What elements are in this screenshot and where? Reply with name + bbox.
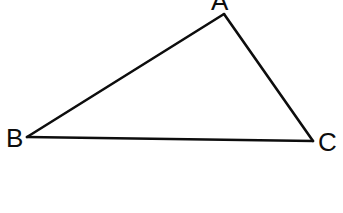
triangle-diagram-canvas: A B C [0,0,343,213]
vertex-label-c: C [318,129,337,155]
vertex-label-b: B [6,125,23,151]
triangle-figure [0,0,343,213]
diagram-background [0,0,343,213]
vertex-label-a: A [211,0,228,14]
